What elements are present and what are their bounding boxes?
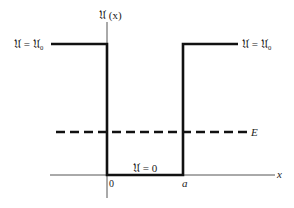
potential-profile	[51, 44, 238, 175]
y-axis-label: 𝔘 (x)	[99, 9, 122, 22]
well-edge-label: a	[182, 177, 188, 189]
energy-label: E	[250, 126, 258, 138]
potential-well-diagram: 𝔘 (x) 𝔘 = 𝔘₀ 𝔘 = 𝔘₀ 𝔘 = 0 0 a x E	[0, 0, 294, 208]
well-floor-label: 𝔘 = 0	[133, 162, 158, 174]
right-barrier-label: 𝔘 = 𝔘₀	[242, 38, 272, 50]
x-axis-label: x	[276, 168, 282, 180]
left-barrier-label: 𝔘 = 𝔘₀	[14, 38, 44, 50]
origin-label: 0	[109, 178, 114, 189]
